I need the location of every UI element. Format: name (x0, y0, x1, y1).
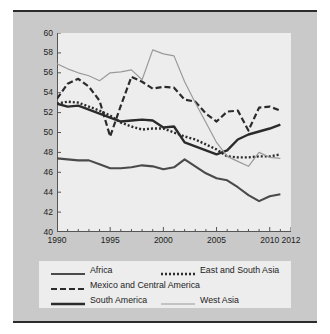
legend-item-south-america[interactable]: South America (51, 295, 147, 305)
legend-label: Mexico and Central America (90, 281, 200, 290)
y-axis-label: 58 (19, 48, 53, 57)
chart-legend: AfricaEast and South AsiaMexico and Cent… (39, 261, 291, 308)
legend-label: South America (90, 296, 147, 305)
legend-row: South AmericaWest Asia (39, 293, 291, 307)
line-chart: 4042444648505254565860199019952000200520… (57, 33, 291, 232)
legend-row: Mexico and Central America (39, 278, 291, 292)
legend-row: AfricaEast and South Asia (39, 263, 291, 277)
legend-swatch-icon (51, 265, 85, 275)
x-axis-label: 1990 (37, 236, 77, 245)
legend-swatch-icon (51, 295, 85, 305)
y-axis-label: 42 (19, 208, 53, 217)
legend-label: West Asia (200, 296, 239, 305)
legend-item-west-asia[interactable]: West Asia (161, 295, 239, 305)
legend-swatch-icon (51, 280, 85, 290)
legend-item-mexico-and-central-america[interactable]: Mexico and Central America (51, 280, 200, 290)
y-axis-label: 50 (19, 128, 53, 137)
legend-item-africa[interactable]: Africa (51, 265, 113, 275)
y-axis-label: 60 (19, 29, 53, 38)
legend-item-east-and-south-asia[interactable]: East and South Asia (161, 265, 279, 275)
figure-top-rule (13, 10, 317, 12)
legend-swatch-icon (161, 265, 195, 275)
y-axis-label: 54 (19, 88, 53, 97)
series-line-africa (57, 158, 280, 201)
y-axis-label: 48 (19, 148, 53, 157)
legend-swatch-icon (161, 295, 195, 305)
x-axis-label: 2005 (197, 236, 237, 245)
x-axis-label: 2012 (271, 236, 311, 245)
y-axis-label: 56 (19, 68, 53, 77)
y-axis-label: 52 (19, 108, 53, 117)
figure-bottom-rule (13, 321, 317, 323)
x-axis-label: 1995 (90, 236, 130, 245)
legend-label: Africa (90, 266, 113, 275)
legend-label: East and South Asia (200, 266, 279, 275)
x-axis-label: 2000 (143, 236, 183, 245)
chart-svg (57, 33, 291, 232)
y-axis-label: 44 (19, 188, 53, 197)
series-line-west-asia (57, 50, 280, 166)
y-axis-label: 46 (19, 168, 53, 177)
figure-panel: 4042444648505254565860199019952000200520… (13, 10, 317, 323)
